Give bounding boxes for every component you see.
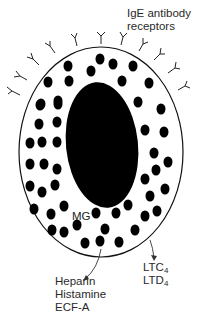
mediator-ltc4: LTC4 (143, 261, 168, 274)
receptor-icon (7, 87, 20, 95)
mediator-heparin: Heparin (55, 275, 106, 288)
receptor-icon (14, 71, 27, 80)
receptors-label-line1: IgE antibody (127, 7, 191, 20)
receptors-label: IgE antibody receptors (127, 7, 191, 33)
receptors-label-line2: receptors (127, 20, 191, 33)
membrane-mediators-label: LTC4 LTD4 (143, 261, 168, 287)
ltc4-base: LTC (143, 261, 164, 273)
receptor-icon (45, 41, 55, 53)
mediator-ltd4: LTD4 (143, 274, 168, 287)
receptor-icon (97, 32, 105, 44)
granule-mediators-label: Heparin Histamine ECF-A (55, 275, 106, 314)
receptor-icon (27, 53, 39, 65)
receptor-icon (178, 81, 190, 90)
receptor-icon (168, 62, 180, 73)
ltd4-subscript: 4 (164, 279, 168, 288)
receptor-icon (71, 33, 77, 46)
mediator-histamine: Histamine (55, 288, 106, 301)
receptor-icon (154, 48, 165, 60)
granule-label: MG (72, 210, 91, 223)
receptor-icon (120, 32, 127, 45)
ltd4-base: LTD (143, 274, 164, 286)
receptor-icon (139, 38, 148, 51)
mediator-ecf-a: ECF-A (55, 301, 106, 314)
